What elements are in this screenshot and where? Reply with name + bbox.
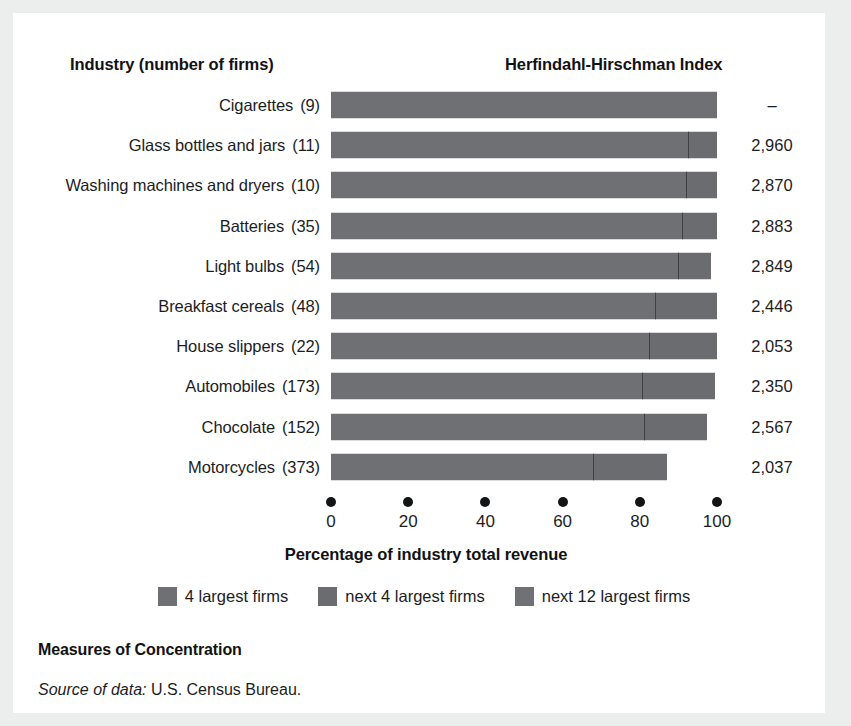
chart-figure: Industry (number of firms) Herfindahl-Hi… [13,13,825,713]
x-axis-tick-dot [712,497,722,507]
bar-segment-next-4-largest [593,453,666,480]
row-label-industry: Chocolate(152) [202,417,320,436]
x-axis-tick-dot [635,497,645,507]
bar-segment-next-4-largest [688,132,717,159]
bar-segment-next-4-largest [644,413,708,440]
industry-firm-count: (9) [300,96,320,114]
legend-item: next 12 largest firms [515,587,691,606]
stacked-bar [331,212,717,239]
bar-segment-4-largest [331,252,678,279]
x-axis-title: Percentage of industry total revenue [13,545,825,564]
industry-name: Motorcycles [188,457,275,475]
stacked-bar [331,453,667,480]
row-label-industry: Washing machines and dryers(10) [65,176,320,195]
legend-item: 4 largest firms [158,587,289,606]
bar-track [331,333,717,360]
chart-row: Breakfast cereals(48)2,446 [13,286,825,326]
bar-track [331,293,717,320]
legend-swatch [515,587,534,606]
stacked-bar [331,172,717,199]
industry-name: Chocolate [202,417,275,435]
industry-name: Batteries [220,216,284,234]
column-header-hhi: Herfindahl-Hirschman Index [505,55,722,74]
industry-name: Glass bottles and jars [129,136,285,154]
x-axis-tick-dot [403,497,413,507]
bar-track [331,413,717,440]
bar-track [331,373,717,400]
bar-track [331,132,717,159]
column-header-industry: Industry (number of firms) [70,55,274,74]
x-axis: 020406080100 [331,490,717,544]
row-label-industry: Light bulbs(54) [205,256,320,275]
row-label-industry: Automobiles(173) [185,377,320,396]
legend-label: next 4 largest firms [345,587,484,606]
x-axis-tick-label: 0 [296,512,366,532]
industry-name: Light bulbs [205,256,284,274]
bar-track [331,252,717,279]
stacked-bar [331,252,711,279]
industry-firm-count: (48) [291,297,320,315]
stacked-bar [331,333,717,360]
row-label-industry: House slippers(22) [176,337,320,356]
bar-segment-next-4-largest [686,172,717,199]
row-value-hhi: 2,960 [729,136,815,155]
industry-firm-count: (54) [291,256,320,274]
industry-firm-count: (373) [282,457,320,475]
industry-firm-count: (22) [291,337,320,355]
industry-firm-count: (173) [282,377,320,395]
legend-swatch [158,587,177,606]
industry-name: Breakfast cereals [158,297,284,315]
bar-segment-next-4-largest [678,252,711,279]
bar-segment-4-largest [331,172,686,199]
row-label-industry: Motorcycles(373) [188,457,320,476]
bar-segment-4-largest [331,413,644,440]
bar-segment-next-4-largest [682,212,717,239]
bar-segment-4-largest [331,453,593,480]
row-value-hhi: 2,350 [729,377,815,396]
source-label: Source of data: [38,681,147,698]
x-axis-tick-label: 60 [528,512,598,532]
industry-name: Washing machines and dryers [65,176,284,194]
row-label-industry: Cigarettes(9) [219,96,320,115]
bar-track [331,172,717,199]
x-axis-tick-label: 40 [450,512,520,532]
industry-firm-count: (10) [291,176,320,194]
chart-row: Washing machines and dryers(10)2,870 [13,165,825,205]
bar-track [331,212,717,239]
row-label-industry: Breakfast cereals(48) [158,297,320,316]
chart-row: Motorcycles(373)2,037 [13,447,825,487]
stacked-bar [331,92,717,119]
row-value-hhi: 2,053 [729,337,815,356]
row-value-hhi: 2,446 [729,297,815,316]
row-value-hhi: 2,883 [729,216,815,235]
bar-segment-4-largest [331,92,717,119]
bar-segment-4-largest [331,333,649,360]
industry-name: Automobiles [185,377,275,395]
stacked-bar [331,373,715,400]
chart-row: Automobiles(173)2,350 [13,366,825,406]
stacked-bar [331,413,707,440]
bar-segment-next-4-largest [642,373,715,400]
stacked-bar [331,293,717,320]
row-label-industry: Glass bottles and jars(11) [129,136,320,155]
x-axis-tick-label: 20 [373,512,443,532]
x-axis-tick-dot [480,497,490,507]
chart-row: Glass bottles and jars(11)2,960 [13,125,825,165]
bar-track [331,92,717,119]
chart-row: Light bulbs(54)2,849 [13,246,825,286]
bar-segment-4-largest [331,212,682,239]
bar-segment-next-4-largest [655,293,717,320]
x-axis-tick-label: 80 [605,512,675,532]
legend-label: 4 largest firms [185,587,289,606]
industry-firm-count: (11) [292,136,320,154]
bar-segment-4-largest [331,132,688,159]
industry-firm-count: (35) [291,216,320,234]
row-value-hhi: 2,849 [729,256,815,275]
bar-segment-next-4-largest [649,333,717,360]
figure-source: Source of data: U.S. Census Bureau. [38,681,301,699]
chart-row: Batteries(35)2,883 [13,206,825,246]
chart-row: Chocolate(152)2,567 [13,407,825,447]
row-value-hhi: 2,870 [729,176,815,195]
industry-name: Cigarettes [219,96,293,114]
industry-name: House slippers [176,337,284,355]
